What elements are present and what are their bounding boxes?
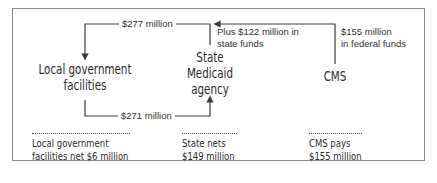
summary-state: State nets $149 million <box>182 137 235 163</box>
flow-label-277: $277 million <box>119 18 176 29</box>
summary-local-top-rule <box>32 133 130 134</box>
summary-local: Local government facilities net $6 milli… <box>32 137 129 163</box>
federal-funds-note: $155 million in federal funds <box>341 26 406 50</box>
state-funds-note: Plus $122 million in state funds <box>217 26 299 50</box>
node-state-medicaid-agency: State Medicaid agency <box>176 49 244 97</box>
summary-cms: CMS pays $155 million <box>309 137 362 163</box>
summary-cms-top-rule <box>309 133 362 134</box>
node-local-government-facilities: Local government facilities <box>17 61 153 93</box>
node-cms: CMS <box>310 68 361 84</box>
summary-state-top-rule <box>182 133 237 134</box>
flow-label-271: $271 million <box>118 110 175 121</box>
